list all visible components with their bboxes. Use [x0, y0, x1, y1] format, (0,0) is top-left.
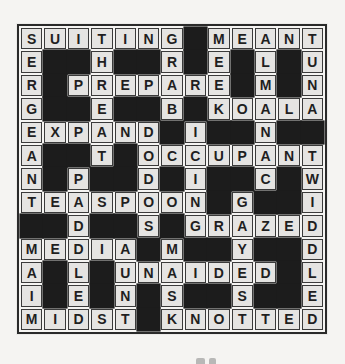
letter-cell[interactable]: E	[232, 262, 253, 283]
letter-cell[interactable]: A	[255, 98, 276, 119]
letter-cell[interactable]: N	[138, 262, 159, 283]
letter-cell[interactable]: O	[232, 98, 253, 119]
letter-cell[interactable]: M	[255, 75, 276, 96]
letter-cell[interactable]: N	[185, 309, 206, 330]
letter-cell[interactable]: T	[115, 309, 136, 330]
letter-cell[interactable]: D	[255, 262, 276, 283]
letter-cell[interactable]: N	[138, 28, 159, 49]
letter-cell[interactable]: I	[21, 285, 42, 306]
letter-cell[interactable]: T	[91, 145, 112, 166]
letter-cell[interactable]: I	[44, 309, 65, 330]
letter-cell[interactable]: G	[232, 192, 253, 213]
letter-cell[interactable]: W	[302, 168, 323, 189]
letter-cell[interactable]: M	[21, 239, 42, 260]
letter-cell[interactable]: I	[302, 192, 323, 213]
letter-cell[interactable]: D	[302, 309, 323, 330]
letter-cell[interactable]: T	[302, 145, 323, 166]
letter-cell[interactable]: R	[161, 51, 182, 72]
letter-cell[interactable]: N	[185, 192, 206, 213]
letter-cell[interactable]: X	[44, 122, 65, 143]
letter-cell[interactable]: O	[138, 192, 159, 213]
letter-cell[interactable]: S	[91, 309, 112, 330]
letter-cell[interactable]: A	[21, 262, 42, 283]
letter-cell[interactable]: L	[68, 262, 89, 283]
letter-cell[interactable]: E	[91, 98, 112, 119]
letter-cell[interactable]: N	[278, 28, 299, 49]
letter-cell[interactable]: T	[232, 309, 253, 330]
letter-cell[interactable]: R	[185, 75, 206, 96]
letter-cell[interactable]: I	[185, 168, 206, 189]
letter-cell[interactable]: A	[161, 75, 182, 96]
letter-cell[interactable]: I	[185, 122, 206, 143]
letter-cell[interactable]: E	[278, 215, 299, 236]
letter-cell[interactable]: A	[232, 215, 253, 236]
letter-cell[interactable]: O	[161, 192, 182, 213]
letter-cell[interactable]: E	[21, 51, 42, 72]
letter-cell[interactable]: L	[255, 51, 276, 72]
letter-cell[interactable]: S	[161, 285, 182, 306]
letter-cell[interactable]: E	[208, 51, 229, 72]
letter-cell[interactable]: N	[115, 122, 136, 143]
letter-cell[interactable]: G	[21, 98, 42, 119]
letter-cell[interactable]: P	[138, 75, 159, 96]
letter-cell[interactable]: I	[185, 262, 206, 283]
letter-cell[interactable]: E	[232, 28, 253, 49]
letter-cell[interactable]: P	[68, 168, 89, 189]
letter-cell[interactable]: D	[138, 168, 159, 189]
letter-cell[interactable]: N	[255, 122, 276, 143]
letter-cell[interactable]: G	[161, 28, 182, 49]
letter-cell[interactable]: E	[44, 192, 65, 213]
letter-cell[interactable]: S	[138, 215, 159, 236]
letter-cell[interactable]: P	[115, 192, 136, 213]
letter-cell[interactable]: D	[68, 309, 89, 330]
letter-cell[interactable]: N	[115, 285, 136, 306]
letter-cell[interactable]: G	[185, 215, 206, 236]
letter-cell[interactable]: N	[21, 168, 42, 189]
letter-cell[interactable]: R	[91, 75, 112, 96]
letter-cell[interactable]: T	[21, 192, 42, 213]
letter-cell[interactable]: A	[21, 145, 42, 166]
letter-cell[interactable]: I	[91, 239, 112, 260]
letter-cell[interactable]: U	[44, 28, 65, 49]
letter-cell[interactable]: O	[138, 145, 159, 166]
letter-cell[interactable]: D	[138, 122, 159, 143]
letter-cell[interactable]: U	[302, 51, 323, 72]
letter-cell[interactable]: Z	[255, 215, 276, 236]
letter-cell[interactable]: T	[91, 28, 112, 49]
letter-cell[interactable]: P	[68, 75, 89, 96]
letter-cell[interactable]: E	[21, 122, 42, 143]
letter-cell[interactable]: A	[68, 192, 89, 213]
letter-cell[interactable]: K	[208, 98, 229, 119]
letter-cell[interactable]: D	[302, 215, 323, 236]
letter-cell[interactable]: D	[68, 215, 89, 236]
letter-cell[interactable]: A	[91, 122, 112, 143]
letter-cell[interactable]: A	[255, 28, 276, 49]
letter-cell[interactable]: A	[302, 98, 323, 119]
letter-cell[interactable]: I	[68, 28, 89, 49]
letter-cell[interactable]: R	[208, 215, 229, 236]
letter-cell[interactable]: P	[68, 122, 89, 143]
letter-cell[interactable]: M	[21, 309, 42, 330]
letter-cell[interactable]: L	[302, 262, 323, 283]
letter-cell[interactable]: E	[68, 285, 89, 306]
letter-cell[interactable]: S	[232, 285, 253, 306]
letter-cell[interactable]: D	[208, 262, 229, 283]
letter-cell[interactable]: M	[208, 28, 229, 49]
letter-cell[interactable]: T	[302, 28, 323, 49]
letter-cell[interactable]: Y	[232, 239, 253, 260]
letter-cell[interactable]: I	[115, 28, 136, 49]
letter-cell[interactable]: E	[278, 309, 299, 330]
letter-cell[interactable]: E	[302, 285, 323, 306]
letter-cell[interactable]: C	[161, 145, 182, 166]
letter-cell[interactable]: U	[208, 145, 229, 166]
letter-cell[interactable]: L	[278, 98, 299, 119]
letter-cell[interactable]: E	[208, 75, 229, 96]
letter-cell[interactable]: E	[115, 75, 136, 96]
letter-cell[interactable]: B	[161, 98, 182, 119]
letter-cell[interactable]: K	[161, 309, 182, 330]
letter-cell[interactable]: E	[44, 239, 65, 260]
letter-cell[interactable]: S	[21, 28, 42, 49]
letter-cell[interactable]: H	[91, 51, 112, 72]
letter-cell[interactable]: D	[68, 239, 89, 260]
letter-cell[interactable]: M	[161, 239, 182, 260]
